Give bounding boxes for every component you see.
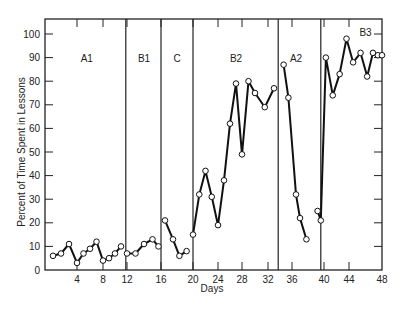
y-axis-label: Percent of Time Spent in Lessons [16,77,27,227]
series-line [193,81,274,234]
series-a1 [50,239,124,266]
data-point-marker [315,208,321,214]
data-point-marker [184,248,190,254]
data-point-marker [293,192,299,198]
data-point-marker [100,258,106,264]
data-point-marker [81,251,87,257]
y-tick-label: 80 [29,76,41,87]
data-point-marker [66,241,72,247]
data-point-marker [141,241,147,247]
phase-label: B3 [359,27,372,38]
x-tick-label: 36 [286,274,298,285]
data-point-marker [350,60,356,66]
x-tick-label: 12 [121,274,133,285]
data-point-marker [50,253,56,259]
data-point-marker [297,215,303,221]
plot-frame [45,19,382,270]
x-axis-label: Days [201,283,224,294]
data-point-marker [323,55,329,61]
data-point-marker [271,85,277,91]
data-point-marker [177,253,183,259]
data-point-marker [330,93,336,99]
y-tick-label: 10 [29,241,41,252]
data-point-marker [74,260,80,266]
data-point-marker [196,192,202,198]
phase-label: B2 [230,53,243,64]
data-point-marker [150,237,156,243]
x-tick-label: 4 [74,274,80,285]
series-line [284,65,307,240]
data-point-marker [337,71,343,77]
data-point-marker [94,239,100,245]
y-tick-label: 100 [23,29,40,40]
y-tick-label: 50 [29,147,41,158]
y-tick-label: 70 [29,99,41,110]
y-tick-label: 30 [29,194,41,205]
plot-border [45,19,382,270]
x-tick-label: 16 [155,274,167,285]
data-point-marker [286,95,292,101]
series-b3 [315,36,385,223]
data-point-marker [118,244,124,250]
series-b1 [124,237,161,257]
x-tick-label: 28 [236,274,248,285]
x-tick-label: 48 [376,274,388,285]
data-point-marker [233,81,239,87]
data-point-marker [344,36,350,42]
series-a2 [281,62,309,242]
x-tick-label: 20 [187,274,199,285]
data-point-marker [170,237,176,243]
x-tick-label: 44 [343,274,355,285]
y-tick-label: 60 [29,123,41,134]
phase-label: A2 [290,53,303,64]
data-point-marker [87,246,93,252]
y-tick-label: 20 [29,217,41,228]
data-point-marker [239,152,245,158]
line-chart: 0102030405060708090100 48121620242832364… [0,0,405,311]
data-point-marker [221,178,227,184]
data-point-marker [379,52,385,58]
series-c [162,218,189,259]
data-point-marker [318,218,324,224]
data-point-marker [262,104,268,110]
data-point-marker [162,218,168,224]
data-point-marker [252,90,258,96]
phase-label: A1 [81,53,94,64]
data-point-marker [112,251,118,257]
data-point-marker [358,50,364,56]
series-b2 [190,78,277,237]
data-point-marker [281,62,287,68]
data-point-marker [133,251,139,257]
data-point-marker [190,232,196,238]
data-point-marker [106,255,112,261]
x-tick-label: 40 [318,274,330,285]
data-point-marker [227,121,233,127]
y-tick-label: 0 [34,265,40,276]
data-point-marker [203,168,209,174]
x-tick-label: 32 [262,274,274,285]
data-point-marker [209,194,215,200]
phase-label: C [173,53,180,64]
data-series [50,36,385,266]
series-line [318,39,382,221]
data-point-marker [304,237,310,243]
data-point-marker [58,251,64,257]
x-tick-label: 8 [100,274,106,285]
data-point-marker [215,222,221,228]
data-point-marker [246,78,252,84]
phase-label: B1 [138,53,151,64]
data-point-marker [156,244,162,250]
data-point-marker [124,251,130,257]
y-tick-label: 40 [29,170,41,181]
data-point-marker [364,74,370,80]
y-tick-label: 90 [29,52,41,63]
